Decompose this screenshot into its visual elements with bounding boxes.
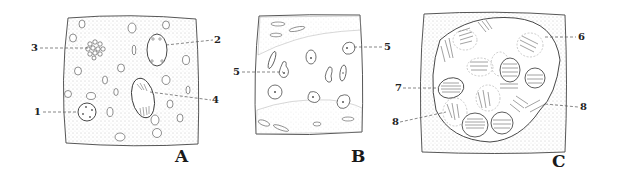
panel-label-a: A: [175, 148, 188, 165]
callout-3: 3: [31, 43, 38, 53]
callout-5-left: 5: [233, 67, 240, 77]
panel-c-drawing: [400, 12, 578, 153]
callout-2: 2: [214, 35, 221, 45]
callout-8-right: 8: [580, 102, 587, 112]
callout-7: 7: [395, 83, 402, 93]
callout-8-left: 8: [392, 117, 399, 127]
callout-6: 6: [578, 32, 585, 42]
panel-b-drawing: [242, 15, 382, 135]
panel-label-c: C: [552, 153, 566, 170]
callout-5-right: 5: [384, 42, 391, 52]
panel-label-b: B: [351, 148, 365, 165]
panel-a-drawing: [40, 16, 213, 146]
histology-figure: [0, 0, 617, 173]
callout-4: 4: [212, 95, 219, 105]
callout-1: 1: [34, 107, 41, 117]
